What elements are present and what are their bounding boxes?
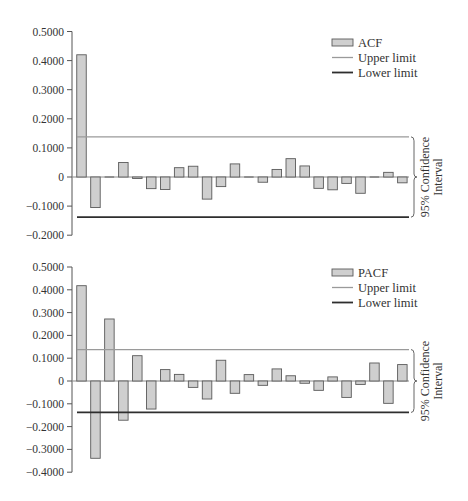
bar-lag-7 xyxy=(160,177,170,190)
confidence-interval-label: 95% ConfidenceInterval xyxy=(418,137,445,217)
y-tick-label: 0.4000 xyxy=(32,55,64,67)
bar-lag-12 xyxy=(230,164,240,177)
bar-lag-23 xyxy=(384,172,394,177)
y-tick-label: 0.2000 xyxy=(32,113,64,125)
bar-lag-6 xyxy=(147,177,157,189)
bar-lag-11 xyxy=(216,177,226,187)
annotation-line: Interval xyxy=(431,362,445,400)
y-tick-label: 0 xyxy=(58,375,64,387)
bar-lag-14 xyxy=(258,177,268,182)
bar-lag-13 xyxy=(244,375,254,381)
bar-lag-12 xyxy=(230,381,240,393)
bar-lag-18 xyxy=(314,177,324,188)
bar-lag-20 xyxy=(342,177,352,183)
bar-lag-15 xyxy=(272,369,282,381)
bar-lag-24 xyxy=(398,177,408,183)
bar-lag-4 xyxy=(119,162,129,177)
legend-label: Upper limit xyxy=(358,281,417,295)
y-tick-label: −0.4000 xyxy=(26,466,64,478)
legend-label: Upper limit xyxy=(358,51,417,65)
y-tick-label: 0.2000 xyxy=(32,329,64,341)
bar-lag-19 xyxy=(328,177,338,190)
y-tick-label: 0.5000 xyxy=(32,26,64,38)
bar-lag-2 xyxy=(91,177,101,208)
legend-bar-swatch-icon xyxy=(332,269,353,276)
y-tick-label: 0.1000 xyxy=(32,352,64,364)
legend-label: Lower limit xyxy=(358,66,418,80)
legend-label: ACF xyxy=(358,36,382,50)
bar-lag-8 xyxy=(174,168,184,177)
bar-lag-11 xyxy=(216,360,226,381)
bar-lag-10 xyxy=(202,381,212,399)
bar-lag-1 xyxy=(77,286,87,381)
acf-chart: 0.50000.40000.30000.20000.10000−0.1000−0… xyxy=(26,26,445,242)
legend-bar-swatch-icon xyxy=(332,39,353,46)
bar-lag-4 xyxy=(119,381,129,420)
bar-lag-18 xyxy=(314,381,324,390)
bar-lag-9 xyxy=(188,381,198,387)
annotation-line: 95% Confidence xyxy=(418,137,432,217)
bar-lag-6 xyxy=(147,381,157,409)
y-tick-label: 0.3000 xyxy=(32,307,64,319)
bar-lag-7 xyxy=(160,370,170,381)
bar-lag-2 xyxy=(91,381,101,458)
bar-lag-22 xyxy=(370,363,380,381)
bar-lag-21 xyxy=(356,177,366,193)
y-tick-label: −0.1000 xyxy=(26,200,64,212)
y-tick-label: 0.1000 xyxy=(32,142,64,154)
pacf-chart: 0.50000.40000.30000.20000.10000−0.1000−0… xyxy=(26,261,445,478)
bar-lag-17 xyxy=(300,381,310,383)
bar-lag-8 xyxy=(174,374,184,381)
y-tick-label: −0.2000 xyxy=(26,229,64,241)
legend: ACFUpper limitLower limit xyxy=(332,36,418,80)
bar-lag-16 xyxy=(286,376,296,381)
y-tick-label: −0.1000 xyxy=(26,398,64,410)
bar-lag-10 xyxy=(202,177,212,199)
annotation-line: Interval xyxy=(431,158,445,196)
bar-lag-9 xyxy=(188,166,198,177)
bar-lag-5 xyxy=(133,356,143,381)
y-tick-label: 0.4000 xyxy=(32,284,64,296)
y-tick-label: 0.3000 xyxy=(32,84,64,96)
bar-lag-1 xyxy=(77,55,87,177)
y-tick-label: 0.5000 xyxy=(32,261,64,273)
correlogram-figure: 0.50000.40000.30000.20000.10000−0.1000−0… xyxy=(0,0,468,501)
y-tick-label: 0 xyxy=(58,171,64,183)
bar-lag-24 xyxy=(398,365,408,381)
annotation-line: 95% Confidence xyxy=(418,341,432,421)
bar-lag-14 xyxy=(258,381,268,385)
legend: PACFUpper limitLower limit xyxy=(332,266,418,310)
bar-lag-21 xyxy=(356,381,366,384)
bar-lag-16 xyxy=(286,159,296,177)
bar-lag-19 xyxy=(328,377,338,381)
y-tick-label: −0.2000 xyxy=(26,421,64,433)
confidence-brace-icon xyxy=(411,350,417,413)
legend-label: PACF xyxy=(358,266,388,280)
bar-lag-17 xyxy=(300,166,310,177)
bar-lag-23 xyxy=(384,381,394,403)
bar-lag-15 xyxy=(272,169,282,177)
legend-label: Lower limit xyxy=(358,296,418,310)
confidence-interval-label: 95% ConfidenceInterval xyxy=(418,341,445,421)
confidence-brace-icon xyxy=(411,137,417,217)
bar-lag-20 xyxy=(342,381,352,397)
bar-lag-5 xyxy=(133,177,143,178)
y-tick-label: −0.3000 xyxy=(26,443,64,455)
